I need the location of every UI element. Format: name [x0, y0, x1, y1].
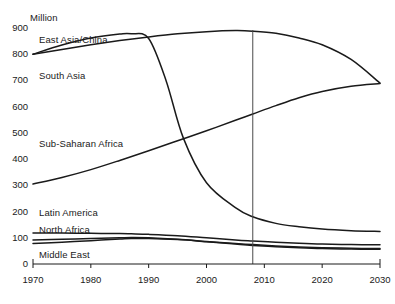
series-line-sub-saharan-africa — [33, 84, 380, 184]
series-label-east-asia-china: East Asia/China — [39, 34, 108, 45]
axis-lines-layer — [33, 259, 380, 268]
series-label-sub-saharan-africa: Sub-Saharan Africa — [39, 138, 123, 149]
series-label-latin-america: Latin America — [39, 207, 98, 218]
series-line-east-asia-china — [33, 33, 380, 231]
series-label-north-africa: North Africa — [39, 224, 90, 235]
series-label-south-asia: South Asia — [39, 70, 85, 81]
series-label-middle-east: Middle East — [39, 249, 90, 260]
